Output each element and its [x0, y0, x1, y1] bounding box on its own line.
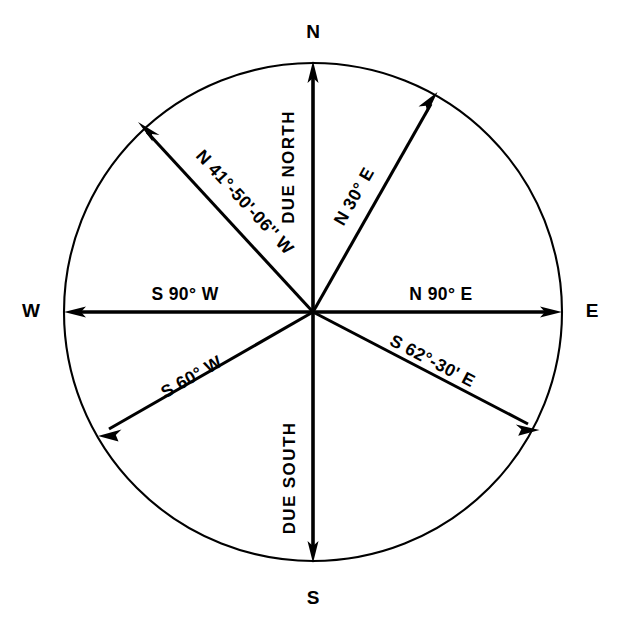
ray-due-south: [308, 312, 319, 563]
ray-due-north: [308, 61, 319, 312]
compass-rose-figure: N E S W DUE NORTH N 30° E N 90° E S 62°-…: [0, 0, 623, 630]
bearing-label-due-north: DUE NORTH: [279, 110, 298, 224]
bearing-label-s-90-w: S 90° W: [151, 284, 218, 304]
bearing-label-s-62-30-e: S 62°-30' E: [387, 330, 479, 391]
ray-line-s-62-30-e: [313, 312, 528, 424]
arrowhead-s-62-30-e: [516, 424, 540, 435]
bearing-label-n-30-e: N 30° E: [330, 164, 379, 229]
cardinal-label-west: W: [22, 300, 40, 321]
bearing-diagram: N E S W DUE NORTH N 30° E N 90° E S 62°-…: [0, 0, 623, 630]
ray-s-62-30-e: [313, 312, 540, 436]
cardinal-label-east: E: [586, 300, 599, 321]
ray-s-90-w: [64, 307, 313, 318]
ray-n-30-e: [313, 92, 438, 312]
ray-line-n-30-e: [313, 104, 431, 312]
bearing-label-s-60-w: S 60° W: [157, 351, 225, 402]
cardinal-label-north: N: [306, 21, 320, 42]
arrowhead-s-60-w: [98, 430, 122, 442]
bearing-label-due-south: DUE SOUTH: [280, 422, 299, 535]
arrowhead-n-30-e: [419, 92, 438, 113]
bearing-label-n-90-e: N 90° E: [409, 284, 472, 304]
ray-n-90-e: [313, 307, 562, 318]
cardinal-label-south: S: [307, 587, 320, 608]
